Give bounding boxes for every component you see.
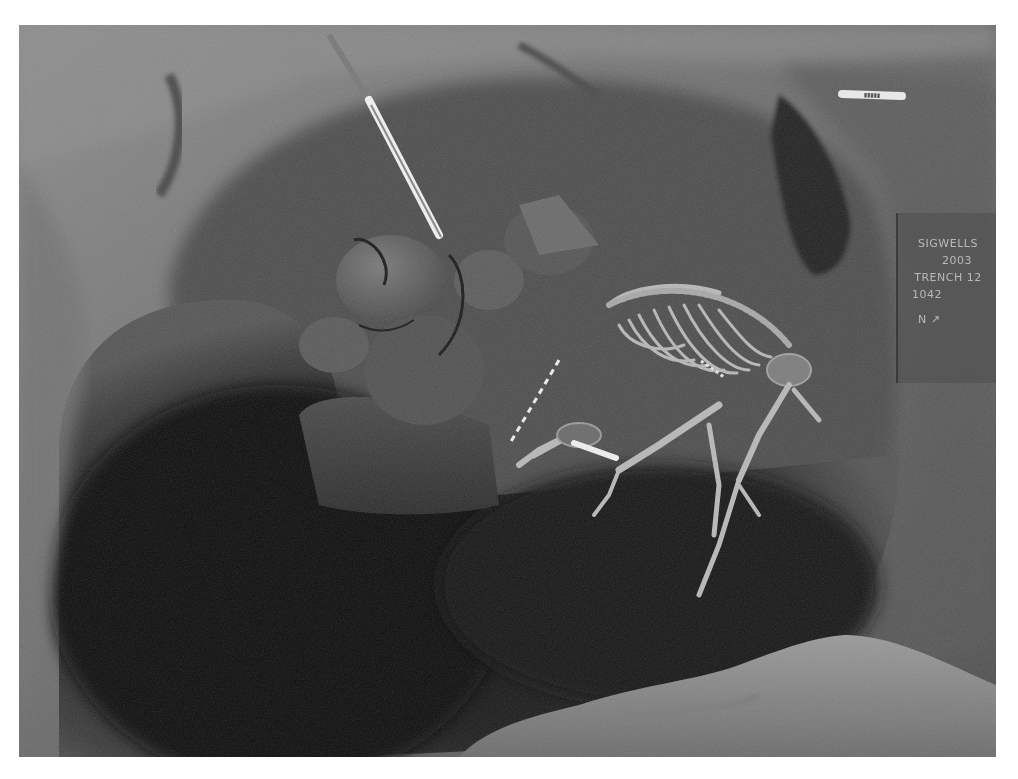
excavation-scene: [19, 25, 996, 757]
label-context-number: 1042: [898, 288, 996, 301]
label-trench: TRENCH 12: [898, 271, 996, 284]
excavation-photo: ▮▮▮▮▮ SIGWELLS 2003 TRENCH 12 1042 N ↗: [19, 25, 996, 757]
label-year: 2003: [898, 254, 996, 267]
north-arrow-icon: N ↗: [898, 313, 996, 326]
context-label-board: SIGWELLS 2003 TRENCH 12 1042 N ↗: [896, 213, 996, 383]
label-site-name: SIGWELLS: [898, 237, 996, 250]
